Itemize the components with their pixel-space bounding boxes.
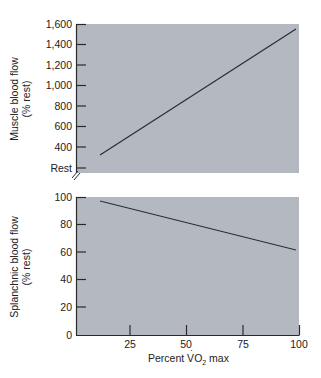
y-tick-label: Rest	[22, 162, 72, 174]
x-tick-label: 25	[115, 338, 145, 350]
splanchnic-line	[100, 201, 296, 250]
muscle-y-axis-title: Muscle blood flow (% rest)	[8, 44, 34, 154]
muscle-line	[100, 29, 296, 155]
x-axis-title: Percent V·O2 max	[148, 352, 229, 366]
x-tick-label: 75	[228, 338, 258, 350]
chart-lines	[0, 0, 321, 378]
splanchnic-y-axis-title: Splanchnic blood flow (% rest)	[8, 202, 34, 332]
x-tick-label: 100	[284, 338, 314, 350]
x-tick-label: 50	[171, 338, 201, 350]
y-tick-label: 1,600	[22, 18, 72, 30]
